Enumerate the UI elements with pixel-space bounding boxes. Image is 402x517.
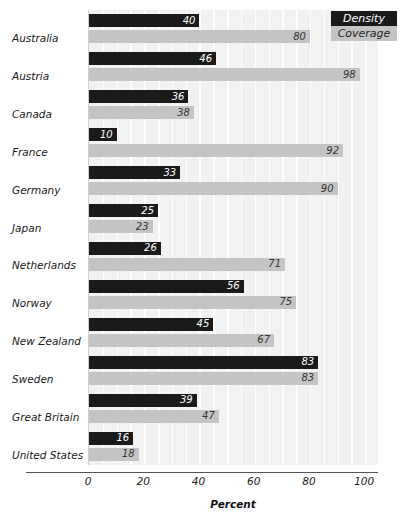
bar-coverage-france[interactable]: 92 <box>89 144 343 157</box>
chart-legend: Density Coverage <box>331 11 397 41</box>
bar-group: 3638 <box>89 90 378 119</box>
bar-group: 1618 <box>89 432 378 461</box>
bar-coverage-norway[interactable]: 75 <box>89 296 296 309</box>
x-tick-label: 0 <box>85 476 92 487</box>
bar-value-label: 16 <box>116 433 129 443</box>
x-tick-label: 40 <box>192 476 205 487</box>
grid-line <box>379 10 381 465</box>
bar-coverage-japan[interactable]: 23 <box>89 220 153 233</box>
x-tick-label: 100 <box>354 476 374 487</box>
bar-group: 1092 <box>89 128 378 157</box>
plot-area: 4080469836381092339025232671567545678383… <box>88 10 378 465</box>
bar-rows: 4080469836381092339025232671567545678383… <box>89 10 378 465</box>
bar-value-label: 38 <box>177 108 190 118</box>
bar-group: 5675 <box>89 280 378 309</box>
bar-value-label: 25 <box>141 206 154 216</box>
bar-density-new-zealand[interactable]: 45 <box>89 318 213 331</box>
bar-value-label: 39 <box>180 395 193 405</box>
bar-group: 3390 <box>89 166 378 195</box>
bar-value-label: 10 <box>100 130 113 140</box>
bar-value-label: 92 <box>326 146 339 156</box>
category-axis-labels: AustraliaAustriaCanadaFranceGermanyJapan… <box>0 10 86 465</box>
bar-coverage-united-states[interactable]: 18 <box>89 448 139 461</box>
x-tick-label: 80 <box>302 476 315 487</box>
bar-chart: 4080469836381092339025232671567545678383… <box>0 0 402 517</box>
category-label-austria: Austria <box>12 71 49 82</box>
bar-value-label: 45 <box>197 319 210 329</box>
bar-density-great-britain[interactable]: 39 <box>89 394 197 407</box>
bar-value-label: 33 <box>163 168 176 178</box>
bar-density-norway[interactable]: 56 <box>89 280 244 293</box>
x-axis-ticks: 020406080100 <box>88 476 378 492</box>
bar-density-france[interactable]: 10 <box>89 128 117 141</box>
x-axis-line <box>26 472 378 473</box>
bar-group: 8383 <box>89 356 378 385</box>
bar-value-label: 46 <box>199 54 212 64</box>
bar-density-japan[interactable]: 25 <box>89 204 158 217</box>
bar-coverage-great-britain[interactable]: 47 <box>89 410 219 423</box>
category-label-united-states: United States <box>12 450 83 461</box>
bar-density-australia[interactable]: 40 <box>89 14 199 27</box>
bar-group: 4698 <box>89 52 378 81</box>
bar-coverage-sweden[interactable]: 83 <box>89 372 318 385</box>
legend-label-density: Density <box>343 13 385 24</box>
bar-value-label: 18 <box>122 449 135 459</box>
bar-group: 3947 <box>89 394 378 423</box>
bar-value-label: 56 <box>227 281 240 291</box>
bar-value-label: 83 <box>302 357 315 367</box>
legend-item-density[interactable]: Density <box>331 11 397 26</box>
category-label-new-zealand: New Zealand <box>12 336 81 347</box>
bar-value-label: 90 <box>321 184 334 194</box>
bar-group: 2523 <box>89 204 378 233</box>
bar-density-netherlands[interactable]: 26 <box>89 242 161 255</box>
category-label-germany: Germany <box>12 185 60 196</box>
category-label-great-britain: Great Britain <box>12 412 79 423</box>
bar-value-label: 26 <box>144 243 157 253</box>
bar-density-germany[interactable]: 33 <box>89 166 180 179</box>
bar-value-label: 80 <box>293 32 306 42</box>
legend-label-coverage: Coverage <box>338 28 391 39</box>
bar-value-label: 98 <box>343 70 356 80</box>
bar-value-label: 36 <box>172 92 185 102</box>
category-label-canada: Canada <box>12 109 52 120</box>
category-label-sweden: Sweden <box>12 374 54 385</box>
bar-density-united-states[interactable]: 16 <box>89 432 133 445</box>
bar-group: 4567 <box>89 318 378 347</box>
legend-item-coverage[interactable]: Coverage <box>331 26 397 41</box>
bar-density-canada[interactable]: 36 <box>89 90 188 103</box>
bar-coverage-germany[interactable]: 90 <box>89 182 338 195</box>
bar-density-sweden[interactable]: 83 <box>89 356 318 369</box>
bar-value-label: 75 <box>279 297 292 307</box>
category-label-norway: Norway <box>12 298 52 309</box>
bar-coverage-austria[interactable]: 98 <box>89 68 360 81</box>
bar-value-label: 83 <box>302 373 315 383</box>
bar-coverage-australia[interactable]: 80 <box>89 30 310 43</box>
bar-group: 2671 <box>89 242 378 271</box>
bar-value-label: 71 <box>268 259 281 269</box>
bar-density-austria[interactable]: 46 <box>89 52 216 65</box>
x-tick-label: 20 <box>137 476 150 487</box>
bar-coverage-netherlands[interactable]: 71 <box>89 258 285 271</box>
x-axis-title: Percent <box>88 499 378 510</box>
category-label-australia: Australia <box>12 33 58 44</box>
bar-coverage-canada[interactable]: 38 <box>89 106 194 119</box>
bar-value-label: 47 <box>202 411 215 421</box>
bar-coverage-new-zealand[interactable]: 67 <box>89 334 274 347</box>
bar-value-label: 67 <box>257 335 270 345</box>
category-label-france: France <box>12 147 48 158</box>
bar-value-label: 23 <box>136 222 149 232</box>
category-label-japan: Japan <box>12 223 41 234</box>
x-tick-label: 60 <box>247 476 260 487</box>
bar-value-label: 40 <box>183 16 196 26</box>
category-label-netherlands: Netherlands <box>12 260 76 271</box>
